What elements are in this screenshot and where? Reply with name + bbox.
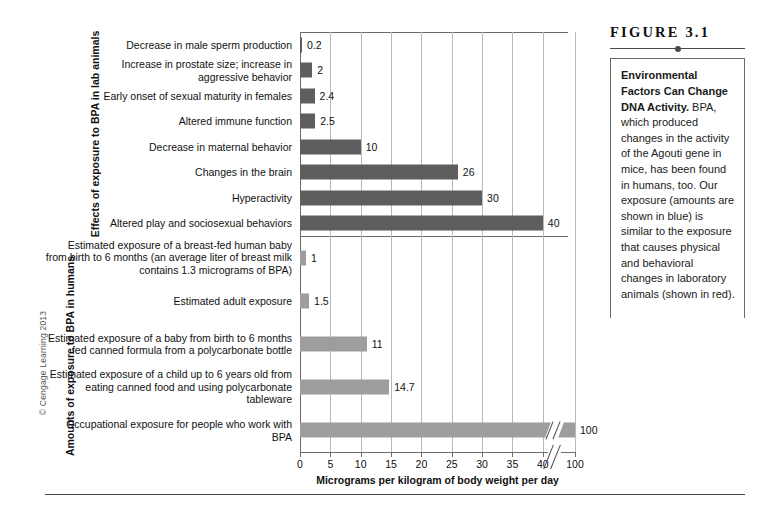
x-axis-tick	[391, 452, 392, 457]
gridline	[575, 32, 576, 236]
bar-value-label: 2	[317, 64, 323, 76]
bar-value-label: 40	[548, 217, 560, 229]
bar	[300, 114, 315, 129]
x-axis-tick-label: 10	[355, 458, 367, 470]
x-axis-tick-label: 15	[385, 458, 397, 470]
caption-box: Environmental Factors Can Change DNA Act…	[610, 58, 745, 318]
bar-row: Estimated exposure of a breast-fed human…	[300, 236, 568, 279]
x-axis-tick	[543, 452, 544, 457]
x-axis-tick	[575, 452, 576, 457]
bar-row: Early onset of sexual maturity in female…	[300, 83, 568, 109]
bar-value-label: 26	[463, 166, 475, 178]
bar	[300, 216, 543, 231]
gridline	[575, 236, 576, 452]
bar-category-label: Estimated exposure of a child up to 6 ye…	[44, 368, 292, 406]
x-axis-tick-label: 20	[416, 458, 428, 470]
bar-value-label: 30	[487, 192, 499, 204]
bar-row: Estimated exposure of a baby from birth …	[300, 322, 568, 365]
bar-category-label: Decrease in maternal behavior	[102, 141, 292, 154]
bar-row: Changes in the brain26	[300, 160, 568, 186]
bar-category-label: Decrease in male sperm production	[102, 39, 292, 52]
x-axis-tick	[361, 452, 362, 457]
caption-body: BPA, which produced changes in the activ…	[621, 101, 735, 300]
x-axis-tick	[512, 452, 513, 457]
bar-category-label: Hyperactivity	[102, 192, 292, 205]
x-axis-tick-label: 35	[507, 458, 519, 470]
figure-number: FIGURE 3.1	[610, 24, 745, 41]
bar	[300, 190, 482, 205]
bar-row: Estimated exposure of a child up to 6 ye…	[300, 366, 568, 409]
x-axis-title: Micrograms per kilogram of body weight p…	[300, 474, 575, 486]
x-axis-tick-label: 0	[297, 458, 303, 470]
bar-row: Decrease in male sperm production0.2	[300, 32, 568, 58]
bar	[300, 293, 309, 308]
bar-row: Hyperactivity30	[300, 185, 568, 211]
bar	[300, 63, 312, 78]
bar	[300, 37, 302, 52]
bar-value-label: 2.5	[320, 115, 335, 127]
x-axis-tick-label: 100	[566, 458, 584, 470]
bar-category-label: Estimated adult exposure	[44, 295, 292, 308]
bar-value-label: 2.4	[320, 90, 335, 102]
bar-row: Estimated adult exposure1.5	[300, 279, 568, 322]
bar-value-label: 1	[311, 252, 317, 264]
x-axis-tick	[482, 452, 483, 457]
bar-category-label: Changes in the brain	[102, 166, 292, 179]
bar-value-label: 10	[366, 141, 378, 153]
bar	[300, 165, 458, 180]
bar	[300, 336, 367, 351]
bar-row: Occupational exposure for people who wor…	[300, 409, 568, 452]
figure-rule	[610, 48, 745, 49]
bar	[300, 139, 361, 154]
bar-value-label: 1.5	[314, 295, 329, 307]
bar	[300, 88, 315, 103]
bar-value-label: 11	[372, 338, 383, 350]
figure-root: © Cengage Learning 2013 Effects of expos…	[0, 0, 766, 519]
panel-lab-animals: Decrease in male sperm production0.2Incr…	[300, 32, 568, 236]
x-axis-tick	[421, 452, 422, 457]
bar-row: Increase in prostate size; increase in a…	[300, 58, 568, 84]
bar-category-label: Altered immune function	[102, 115, 292, 128]
rule-dot-icon	[675, 46, 681, 52]
bar-row: Altered immune function2.5	[300, 109, 568, 135]
caption-column: FIGURE 3.1 Environmental Factors Can Cha…	[610, 24, 745, 318]
x-axis-tick	[452, 452, 453, 457]
x-axis-line	[300, 452, 575, 453]
bar-category-label: Altered play and sociosexual behaviors	[102, 217, 292, 230]
x-axis-tick	[300, 452, 301, 457]
bar	[300, 423, 575, 438]
bar-value-label: 100	[580, 424, 598, 436]
bar-category-label: Occupational exposure for people who wor…	[44, 418, 292, 443]
panel-humans: Estimated exposure of a breast-fed human…	[300, 236, 568, 452]
bar-category-label: Estimated exposure of a baby from birth …	[44, 331, 292, 356]
bar-value-label: 14.7	[394, 381, 414, 393]
caption-text: Environmental Factors Can Change DNA Act…	[621, 68, 735, 302]
bar	[300, 380, 389, 395]
x-axis-tick-label: 5	[327, 458, 333, 470]
x-axis-tick	[330, 452, 331, 457]
bar-row: Altered play and sociosexual behaviors40	[300, 211, 568, 237]
x-axis-tick-label: 25	[446, 458, 458, 470]
bar-category-label: Increase in prostate size; increase in a…	[102, 58, 292, 83]
bar-category-label: Estimated exposure of a breast-fed human…	[44, 239, 292, 277]
bar-row: Decrease in maternal behavior10	[300, 134, 568, 160]
bar	[300, 250, 306, 265]
bar-category-label: Early onset of sexual maturity in female…	[102, 90, 292, 103]
bar-value-label: 0.2	[307, 39, 322, 51]
x-axis-tick-label: 30	[476, 458, 488, 470]
